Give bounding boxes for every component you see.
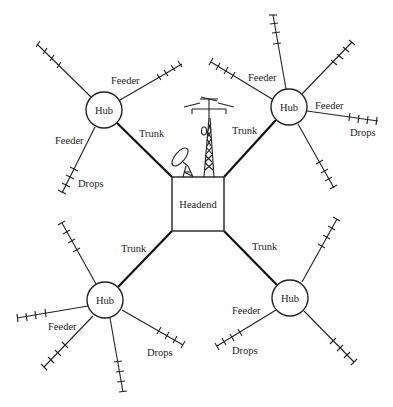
- feeder-label: Feeder: [55, 135, 84, 146]
- svg-text:Hub: Hub: [280, 102, 298, 113]
- hub-bottom-right: Hub: [272, 280, 308, 316]
- feeder-label: Feeder: [48, 321, 77, 332]
- hub-top-left: Hub: [86, 92, 122, 128]
- feeder-label: Feeder: [111, 75, 140, 86]
- cable-network-diagram: Headend Hub Hub Hub: [0, 0, 393, 407]
- svg-text:Hub: Hub: [281, 293, 299, 304]
- antenna-tower-icon: [184, 97, 234, 177]
- trunk-label: Trunk: [121, 243, 147, 254]
- svg-text:Hub: Hub: [95, 105, 113, 116]
- trunk-bottom-right: [224, 231, 277, 285]
- drops-label: Drops: [78, 178, 104, 189]
- trunk-label: Trunk: [232, 125, 258, 136]
- feeder-label: Feeder: [232, 305, 261, 316]
- headend-label: Headend: [179, 199, 217, 210]
- feeder-label: Feeder: [315, 100, 344, 111]
- trunk-label: Trunk: [252, 241, 278, 252]
- hub-bottom-left: Hub: [87, 282, 123, 318]
- trunk-bottom-left: [118, 231, 172, 287]
- hub-top-right: Hub: [271, 89, 307, 125]
- trunk-label: Trunk: [139, 128, 165, 139]
- drops-label: Drops: [350, 127, 376, 138]
- feeder-label: Feeder: [248, 72, 277, 83]
- drops-label: Drops: [147, 347, 173, 358]
- svg-text:Hub: Hub: [96, 295, 114, 306]
- satellite-dish-icon: [169, 145, 193, 177]
- drops-label: Drops: [232, 345, 258, 356]
